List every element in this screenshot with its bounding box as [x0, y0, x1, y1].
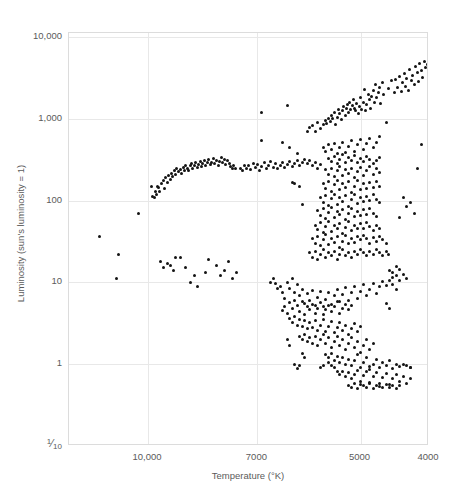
- data-point: [364, 109, 367, 112]
- data-point: [249, 168, 252, 171]
- data-point: [316, 344, 319, 347]
- x-gridline: [148, 33, 149, 444]
- data-point: [381, 376, 384, 379]
- data-point: [370, 95, 373, 98]
- data-point: [286, 312, 289, 315]
- data-point: [324, 187, 327, 190]
- data-point: [301, 300, 304, 303]
- data-point: [356, 227, 359, 230]
- data-point: [359, 238, 362, 241]
- data-point: [341, 293, 344, 296]
- data-point: [303, 356, 306, 359]
- data-point: [341, 370, 344, 373]
- data-point: [398, 380, 401, 383]
- data-point: [344, 168, 347, 171]
- data-point: [330, 254, 333, 257]
- data-point: [341, 329, 344, 332]
- data-point: [283, 297, 286, 300]
- data-point: [338, 146, 341, 149]
- data-point: [388, 359, 391, 362]
- data-point: [356, 353, 359, 356]
- data-point: [362, 148, 365, 151]
- data-point: [375, 198, 378, 201]
- data-point: [179, 256, 182, 259]
- data-point: [330, 237, 333, 240]
- data-point: [322, 333, 325, 336]
- data-point: [347, 242, 350, 245]
- data-point: [308, 336, 311, 339]
- data-point: [359, 290, 362, 293]
- data-point: [402, 196, 405, 199]
- data-point: [353, 359, 356, 362]
- data-point: [365, 294, 368, 297]
- data-point: [286, 163, 289, 166]
- data-point: [162, 179, 165, 182]
- data-point: [286, 104, 289, 107]
- data-point: [333, 366, 336, 369]
- data-point: [296, 152, 299, 155]
- data-point: [283, 166, 286, 169]
- data-point: [347, 156, 350, 159]
- data-point: [187, 169, 190, 172]
- data-point: [338, 344, 341, 347]
- data-point: [372, 342, 375, 345]
- data-point: [378, 171, 381, 174]
- data-point: [336, 203, 339, 206]
- data-point: [347, 172, 350, 175]
- data-point: [414, 65, 417, 68]
- data-point: [169, 178, 172, 181]
- data-point: [365, 155, 368, 158]
- data-point: [407, 89, 410, 92]
- data-point: [350, 386, 353, 389]
- data-point: [341, 248, 344, 251]
- data-point: [322, 207, 325, 210]
- data-point: [344, 348, 347, 351]
- data-point: [333, 224, 336, 227]
- data-point: [344, 194, 347, 197]
- data-point: [330, 190, 333, 193]
- data-point: [398, 216, 401, 219]
- data-point: [336, 235, 339, 238]
- data-point: [213, 162, 216, 165]
- data-point: [341, 356, 344, 359]
- data-point: [204, 164, 207, 167]
- data-point: [301, 338, 304, 341]
- data-point: [327, 220, 330, 223]
- data-point: [353, 346, 356, 349]
- data-point: [322, 146, 325, 149]
- data-point: [368, 98, 371, 101]
- data-point: [372, 186, 375, 189]
- data-point: [398, 384, 401, 387]
- data-point: [347, 111, 350, 114]
- data-point: [337, 108, 340, 111]
- data-point: [360, 108, 363, 111]
- data-point: [298, 185, 301, 188]
- data-point: [377, 91, 380, 94]
- data-point: [356, 297, 359, 300]
- data-point: [388, 279, 391, 282]
- plot-area: [68, 32, 428, 445]
- data-point: [333, 111, 336, 114]
- data-point: [395, 274, 398, 277]
- data-point: [338, 253, 341, 256]
- data-point: [375, 215, 378, 218]
- data-point: [293, 291, 296, 294]
- data-point: [347, 358, 350, 361]
- data-point: [327, 157, 330, 160]
- data-point: [347, 212, 350, 215]
- data-point: [325, 122, 328, 125]
- data-point: [368, 165, 371, 168]
- data-point: [381, 81, 384, 84]
- data-point: [356, 330, 359, 333]
- data-point: [420, 143, 423, 146]
- data-point: [353, 150, 356, 153]
- data-point: [338, 300, 341, 303]
- data-point: [215, 264, 218, 267]
- data-point: [365, 142, 368, 145]
- data-point: [162, 266, 165, 269]
- data-point: [409, 366, 412, 369]
- data-point: [311, 289, 314, 292]
- data-point: [269, 160, 272, 163]
- data-point: [306, 340, 309, 343]
- data-point: [324, 330, 327, 333]
